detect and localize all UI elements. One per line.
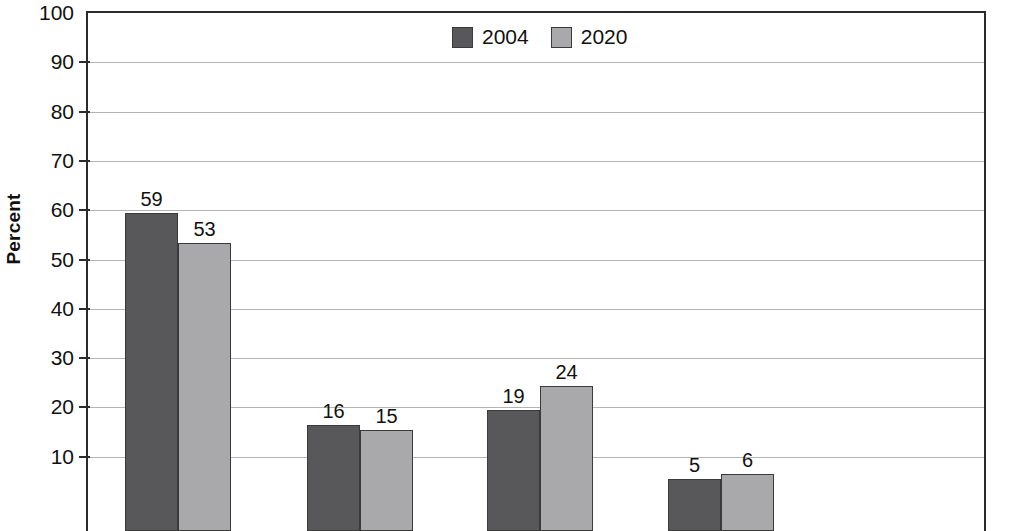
bar-value-label-2004-group-2: 16 bbox=[322, 400, 344, 423]
plot-area: 102030405060708090100 59161955315246 bbox=[86, 11, 986, 531]
y-tick-mark-30 bbox=[79, 357, 90, 359]
y-axis-title: Percent bbox=[3, 184, 25, 274]
y-tick-label-70: 70 bbox=[51, 149, 74, 173]
y-tick-label-80: 80 bbox=[51, 100, 74, 124]
bar-value-label-2020-group-3: 24 bbox=[555, 361, 577, 384]
y-tick-mark-80 bbox=[79, 111, 90, 113]
bar-2004-group-3[interactable] bbox=[487, 410, 540, 531]
bar-2020-group-4[interactable] bbox=[721, 474, 774, 531]
gridline-60 bbox=[88, 210, 984, 211]
legend-label-2020: 2020 bbox=[581, 25, 628, 49]
chart-legend: 2004 2020 bbox=[452, 25, 627, 49]
y-tick-mark-20 bbox=[79, 406, 90, 408]
bar-value-label-2020-group-2: 15 bbox=[375, 405, 397, 428]
legend-swatch-2020-icon bbox=[551, 27, 572, 48]
y-tick-label-30: 30 bbox=[51, 346, 74, 370]
gridline-90 bbox=[88, 62, 984, 63]
bar-2020-group-1[interactable] bbox=[178, 243, 231, 531]
bar-2020-group-2[interactable] bbox=[360, 430, 413, 531]
gridline-70 bbox=[88, 161, 984, 162]
y-tick-label-10: 10 bbox=[51, 445, 74, 469]
y-tick-mark-60 bbox=[79, 209, 90, 211]
y-tick-label-100: 100 bbox=[39, 1, 74, 25]
legend-label-2004: 2004 bbox=[482, 25, 529, 49]
legend-entry-2004[interactable]: 2004 bbox=[452, 25, 529, 49]
y-tick-mark-70 bbox=[79, 160, 90, 162]
y-tick-mark-50 bbox=[79, 259, 90, 261]
bar-value-label-2020-group-4: 6 bbox=[742, 449, 753, 472]
bar-value-label-2004-group-3: 19 bbox=[502, 385, 524, 408]
y-tick-label-50: 50 bbox=[51, 248, 74, 272]
legend-swatch-2004-icon bbox=[452, 27, 473, 48]
bar-value-label-2004-group-4: 5 bbox=[689, 454, 700, 477]
y-tick-label-60: 60 bbox=[51, 198, 74, 222]
y-tick-mark-90 bbox=[79, 61, 90, 63]
bar-value-label-2004-group-1: 59 bbox=[140, 188, 162, 211]
y-tick-label-90: 90 bbox=[51, 50, 74, 74]
legend-entry-2020[interactable]: 2020 bbox=[551, 25, 628, 49]
gridline-80 bbox=[88, 112, 984, 113]
bar-2004-group-1[interactable] bbox=[125, 213, 178, 531]
bar-value-label-2020-group-1: 53 bbox=[193, 218, 215, 241]
y-tick-label-40: 40 bbox=[51, 297, 74, 321]
y-tick-label-20: 20 bbox=[51, 395, 74, 419]
y-tick-mark-40 bbox=[79, 308, 90, 310]
bar-2004-group-2[interactable] bbox=[307, 425, 360, 531]
bar-2020-group-3[interactable] bbox=[540, 386, 593, 531]
bar-2004-group-4[interactable] bbox=[668, 479, 721, 531]
y-tick-mark-10 bbox=[79, 456, 90, 458]
